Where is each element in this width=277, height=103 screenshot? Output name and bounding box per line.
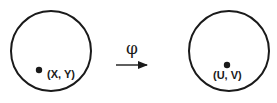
target-disk: (U, V) bbox=[189, 11, 269, 91]
source-point bbox=[36, 67, 42, 73]
mapping-arrow: φ bbox=[116, 38, 147, 65]
source-disk: (X, Y) bbox=[11, 11, 91, 91]
mapping-diagram: (X, Y) φ (U, V) bbox=[0, 0, 277, 103]
target-point-label: (U, V) bbox=[213, 69, 242, 81]
source-point-label: (X, Y) bbox=[47, 68, 75, 80]
mapping-symbol: φ bbox=[126, 38, 138, 58]
target-point bbox=[224, 62, 230, 68]
